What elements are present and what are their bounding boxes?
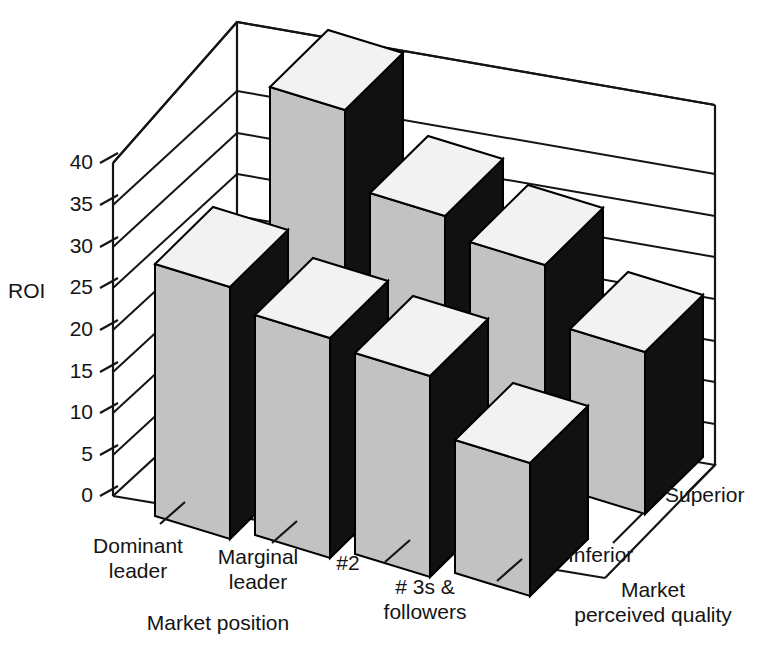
y-tick-label-40: 40 (70, 150, 93, 173)
z-category-label-superior: Superior (665, 483, 744, 506)
z-axis-title-line1: Market (621, 578, 685, 601)
x-category-label-3-line2: followers (384, 600, 467, 623)
y-tick-label-10: 10 (70, 400, 93, 423)
x-category-label-0-line1: Dominant (93, 534, 183, 557)
x-category-label-1-line2: leader (229, 570, 287, 593)
y-tick-label-35: 35 (70, 192, 93, 215)
z-axis-title-line2: perceived quality (574, 603, 732, 626)
x-category-label-1-line1: Marginal (218, 545, 299, 568)
x-category-label-0-line2: leader (109, 559, 167, 582)
x-category-label-3-line1: # 3s & (395, 575, 455, 598)
y-tick-label-15: 15 (70, 359, 93, 382)
roi-3d-bar-chart: 40 35 30 25 20 15 10 5 0 ROI (0, 0, 767, 646)
z-category-label-inferior: Inferior (568, 543, 633, 566)
y-tick-label-0: 0 (81, 483, 93, 506)
y-tick-label-30: 30 (70, 234, 93, 257)
chart-root: 40 35 30 25 20 15 10 5 0 ROI (0, 0, 767, 646)
y-axis-title: ROI (8, 279, 45, 302)
bar-superior-number-3s-followers (570, 272, 703, 514)
y-tick-label-25: 25 (70, 275, 93, 298)
y-tick-label-5: 5 (81, 442, 93, 465)
x-axis-title: Market position (147, 611, 289, 634)
x-category-label-2-line1: #2 (336, 551, 359, 574)
y-tick-label-20: 20 (70, 317, 93, 340)
